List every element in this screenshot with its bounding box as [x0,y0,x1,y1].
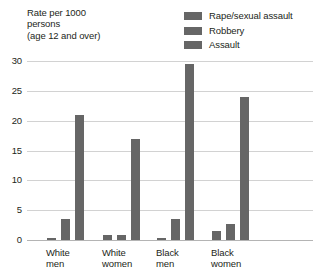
bar [47,238,56,240]
gridline [27,180,313,181]
bar [157,238,166,240]
gridline [27,61,313,62]
bar [226,224,235,240]
bar [171,219,180,240]
y-axis-tick-label: 15 [0,146,22,156]
bar [240,97,249,240]
bar [117,235,126,240]
bar [185,64,194,240]
y-axis-tick-label: 30 [0,56,22,66]
bar [131,139,140,240]
y-axis-tick-label: 5 [0,205,22,215]
x-axis-group-label: Black women [211,247,241,270]
x-axis-group-label: White women [102,247,132,270]
y-axis-tick-label: 10 [0,175,22,185]
axis-baseline [27,240,313,241]
bar [61,219,70,240]
gridline [27,91,313,92]
x-axis-group-label: Black men [156,247,179,270]
x-axis-group-label: White men [46,247,70,270]
y-axis-tick-label: 0 [0,235,22,245]
y-axis-tick-label: 20 [0,116,22,126]
bar [75,115,84,240]
bar [103,235,112,240]
bar [212,231,221,240]
chart-plot-area: 051015202530White menWhite womenBlack me… [0,0,318,279]
gridline [27,210,313,211]
gridline [27,121,313,122]
y-axis-tick-label: 25 [0,86,22,96]
gridline [27,151,313,152]
